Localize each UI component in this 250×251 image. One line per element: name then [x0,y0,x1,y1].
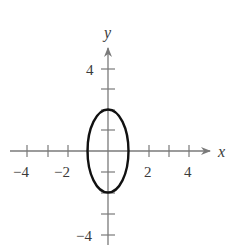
x-tick-label-neg4: −4 [13,164,29,180]
x-tick-label-2: 2 [144,164,152,180]
x-axis-label: x [217,143,225,160]
x-tick-label-4: 4 [184,164,192,180]
y-axis-label: y [102,24,112,42]
x-tick-label-neg2: −2 [54,164,70,180]
y-tick-label-4: 4 [86,62,94,78]
y-tick-label-neg4: −4 [76,228,92,244]
ellipse-graph: −4 −2 2 4 4 −4 x y [0,0,250,251]
